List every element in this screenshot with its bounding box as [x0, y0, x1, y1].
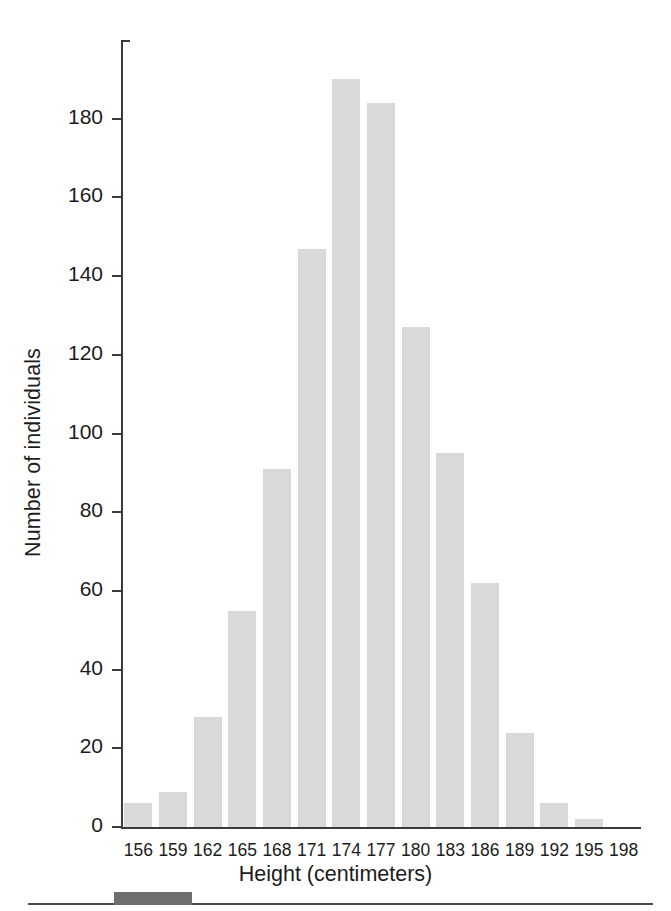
y-tick: 20: [112, 747, 123, 749]
x-axis-line: [121, 827, 641, 829]
y-tick: 140: [112, 275, 123, 277]
y-axis-title: Number of individuals: [21, 283, 46, 623]
x-tick-label: 168: [260, 840, 295, 860]
bar: [575, 819, 603, 827]
y-tick-label: 0: [91, 813, 103, 837]
bar: [194, 717, 222, 827]
x-tick-label: 180: [398, 840, 433, 860]
bar: [332, 79, 360, 827]
x-tick-label: 195: [572, 840, 607, 860]
x-tick-label: 159: [156, 840, 191, 860]
bar: [228, 611, 256, 827]
x-tick-label: 198: [606, 840, 641, 860]
y-tick: 100: [112, 433, 123, 435]
histogram-figure: Number of individuals 020406080100120140…: [0, 0, 671, 911]
y-tick-label: 180: [68, 105, 103, 129]
x-tick-label: 156: [121, 840, 156, 860]
y-tick: 60: [112, 590, 123, 592]
y-tick: 80: [112, 511, 123, 513]
bar: [540, 803, 568, 827]
y-tick-label: 80: [80, 498, 103, 522]
y-tick-label: 140: [68, 262, 103, 286]
x-tick-label: 189: [502, 840, 537, 860]
x-tick-label: 177: [364, 840, 399, 860]
bar: [298, 249, 326, 827]
x-tick-label: 192: [537, 840, 572, 860]
y-tick: 160: [112, 196, 123, 198]
x-axis-title: Height (centimeters): [0, 862, 671, 887]
y-tick: 120: [112, 354, 123, 356]
x-tick-label: 162: [190, 840, 225, 860]
bar: [471, 583, 499, 827]
y-tick-label: 120: [68, 341, 103, 365]
x-tick-label: 186: [468, 840, 503, 860]
y-tick: 0: [112, 826, 123, 828]
bar: [159, 792, 187, 827]
plot-area: 020406080100120140160180 156159162165168…: [121, 40, 641, 828]
bar: [506, 733, 534, 827]
bar: [436, 453, 464, 827]
bar: [263, 469, 291, 827]
y-tick: 180: [112, 118, 123, 120]
y-tick-label: 40: [80, 656, 103, 680]
y-tick-label: 160: [68, 183, 103, 207]
y-tick-label: 100: [68, 420, 103, 444]
x-tick-label: 165: [225, 840, 260, 860]
x-tick-label: 171: [294, 840, 329, 860]
bar: [402, 327, 430, 827]
bar: [124, 803, 152, 827]
y-tick-label: 60: [80, 577, 103, 601]
footer-dark-block: [114, 892, 192, 905]
bar: [367, 103, 395, 827]
y-tick: 40: [112, 669, 123, 671]
x-tick-label: 174: [329, 840, 364, 860]
y-tick-label: 20: [80, 734, 103, 758]
y-axis-top-cap: [121, 40, 130, 42]
x-tick-label: 183: [433, 840, 468, 860]
